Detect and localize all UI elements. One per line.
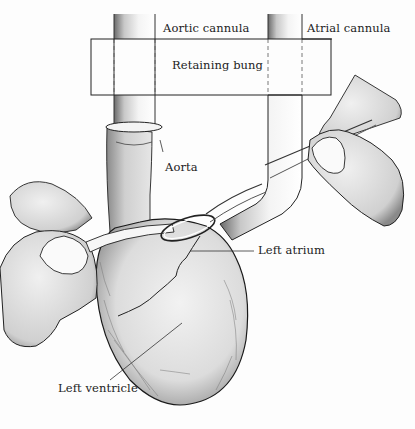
label-aortic-cannula: Aortic cannula — [163, 21, 250, 35]
label-atrial-cannula: Atrial cannula — [307, 21, 391, 35]
label-left-ventricle: Left ventricle — [58, 381, 138, 395]
figure-canvas: Aortic cannula Atrial cannula Retaining … — [0, 0, 415, 429]
atrial-cannula — [220, 14, 302, 240]
label-retaining-bung: Retaining bung — [172, 58, 263, 72]
label-aorta: Aorta — [165, 160, 198, 174]
aorta — [106, 122, 163, 232]
label-left-atrium: Left atrium — [258, 243, 325, 257]
heart — [96, 219, 248, 405]
aortic-cannula — [114, 14, 155, 127]
